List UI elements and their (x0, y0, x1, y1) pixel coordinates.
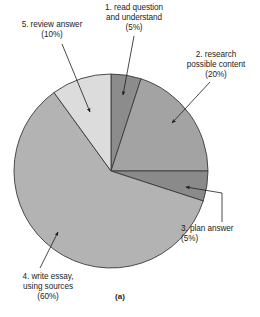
pie-label-plan-answer: 3. plan answer (5%) (181, 224, 259, 244)
figure-caption: (a) (100, 292, 140, 301)
pie-slice-group (14, 74, 208, 268)
pie-label-write-essay: 4. write essay, using sources (60%) (2, 272, 94, 303)
pie-label-research-possible-content: 2. research possible content (20%) (174, 50, 258, 81)
pie-label-review-answer: 5. review answer (10%) (12, 20, 92, 40)
pie-chart-figure: 1. read question and understand (5%) 2. … (0, 0, 260, 317)
pie-label-read-question: 1. read question and understand (5%) (94, 3, 174, 34)
pie-chart-canvas (0, 0, 260, 317)
